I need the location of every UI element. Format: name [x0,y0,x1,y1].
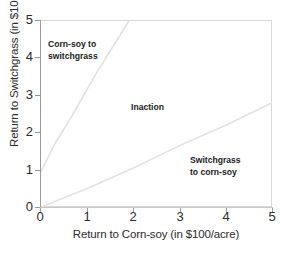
y-tick-label-2: 2 [18,125,33,138]
region-label-switchgrass-to-corn-soy: Switchgrass to corn-soy [190,154,241,179]
x-tick-label-5: 5 [264,210,280,223]
x-tick-label-2: 2 [125,210,141,223]
x-tick-label-1: 1 [79,210,95,223]
y-tick-label-4: 4 [18,50,33,63]
chart-screenshot: Return to Switchgrass (in $100/acre) 5 4… [0,0,288,258]
y-tick-label-0: 0 [18,200,33,213]
y-tick-label-3: 3 [18,88,33,101]
x-axis-title: Return to Corn-soy (in $100/acre) [40,228,272,240]
y-tick-label-1: 1 [18,163,33,176]
x-axis-spine [40,207,273,208]
x-tick-label-0: 0 [32,210,48,223]
region-label-corn-soy-to-switchgrass: Corn-soy to switchgrass [48,38,98,63]
region-label-inaction: Inaction [131,101,164,113]
x-tick-label-3: 3 [172,210,188,223]
x-tick-label-4: 4 [218,210,234,223]
y-tick-label-5: 5 [18,13,33,26]
